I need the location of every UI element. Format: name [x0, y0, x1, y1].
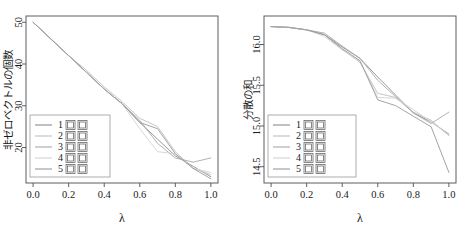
y-axis-title: 分散の和 — [242, 80, 254, 120]
legend-box — [30, 115, 110, 177]
legend-label-number: 3 — [58, 141, 63, 152]
x-tick-label: 0.4 — [336, 189, 350, 200]
y-axis-title: 非ゼロベクトルの個数 — [2, 49, 14, 150]
legend: 12345 — [268, 115, 356, 177]
legend-label-number: 1 — [58, 119, 63, 130]
x-tick-label: 0.2 — [62, 189, 75, 200]
y-tick-label: 30 — [13, 101, 24, 112]
figure-container: 0.00.20.40.60.81.0λ20304050非ゼロベクトルの個数123… — [0, 0, 476, 238]
chart-panel-left: 0.00.20.40.60.81.0λ20304050非ゼロベクトルの個数123… — [0, 0, 238, 238]
legend-label-number: 4 — [58, 152, 63, 163]
legend-label-number: 5 — [58, 163, 63, 174]
legend: 12345 — [30, 115, 110, 177]
x-tick-label: 0.8 — [407, 189, 420, 200]
legend-label-number: 1 — [296, 119, 301, 130]
y-axis: 14.515.015.516.0分散の和 — [242, 35, 264, 176]
legend-label-number: 2 — [296, 130, 301, 141]
chart-panel-right: 0.00.20.40.60.81.0λ14.515.015.516.0分散の和1… — [238, 0, 476, 238]
x-tick-label: 1.0 — [442, 189, 455, 200]
legend-label-number: 2 — [58, 130, 63, 141]
x-tick-label: 0.6 — [371, 189, 384, 200]
legend-box — [268, 115, 356, 177]
x-axis-title: λ — [119, 211, 125, 225]
legend-label-number: 4 — [296, 152, 301, 163]
x-tick-label: 0.2 — [300, 189, 313, 200]
x-tick-label: 0.4 — [98, 189, 112, 200]
x-tick-label: 0.0 — [265, 189, 278, 200]
y-tick-label: 16.0 — [251, 35, 262, 53]
series-line-3 — [271, 27, 449, 124]
x-tick-label: 0.8 — [169, 189, 182, 200]
x-tick-label: 1.0 — [204, 189, 217, 200]
x-axis: 0.00.20.40.60.81.0λ — [27, 183, 218, 225]
x-axis-title: λ — [357, 211, 363, 225]
x-tick-label: 0.6 — [133, 189, 146, 200]
y-tick-label: 40 — [13, 59, 24, 70]
y-tick-label: 20 — [13, 142, 24, 153]
legend-label-number: 3 — [296, 141, 301, 152]
y-axis: 20304050非ゼロベクトルの個数 — [2, 17, 26, 153]
legend-label-number: 5 — [296, 163, 301, 174]
x-tick-label: 0.0 — [27, 189, 40, 200]
y-tick-label: 14.5 — [251, 158, 262, 176]
plot-right: 0.00.20.40.60.81.0λ14.515.015.516.0分散の和1… — [238, 0, 476, 238]
plot-left: 0.00.20.40.60.81.0λ20304050非ゼロベクトルの個数123… — [0, 0, 238, 238]
y-tick-label: 50 — [13, 17, 24, 28]
x-axis: 0.00.20.40.60.81.0λ — [265, 183, 456, 225]
